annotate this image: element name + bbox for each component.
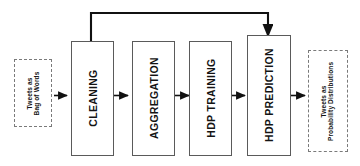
node-hdp-prediction[interactable]: HDP PREDICTION [247, 35, 291, 156]
node-input-label: Tweets as Bag of Words [26, 71, 41, 115]
node-cleaning[interactable]: CLEANING [71, 41, 114, 156]
node-cleaning-label-text: CLEANING [86, 70, 98, 127]
node-hdp-training-label: HDP TRAINING [204, 59, 216, 138]
node-output-label-line1: Tweets as [321, 85, 328, 117]
node-hdp-prediction-label: HDP PREDICTION [263, 49, 275, 143]
node-input-label-line1: Tweets as [26, 77, 33, 109]
node-input[interactable]: Tweets as Bag of Words [14, 59, 52, 127]
node-output-label: Tweets as Probability Distributions [321, 61, 336, 140]
node-output-label-line2: Probability Distributions [328, 61, 335, 140]
edge-feedback-cleaning-to-hdp-prediction [91, 13, 268, 41]
node-hdp-prediction-label-text: HDP PREDICTION [263, 49, 275, 143]
connectors-layer [0, 0, 360, 166]
node-output[interactable]: Tweets as Probability Distributions [308, 50, 348, 152]
node-aggregation-label-text: AGGREGATION [147, 58, 159, 140]
node-aggregation[interactable]: AGGREGATION [132, 41, 175, 156]
node-input-label-line2: Bag of Words [33, 71, 40, 115]
flowchart-canvas: Tweets as Bag of Words CLEANING AGGREGAT… [0, 0, 360, 166]
node-cleaning-label: CLEANING [86, 70, 98, 127]
node-aggregation-label: AGGREGATION [147, 58, 159, 140]
node-hdp-training[interactable]: HDP TRAINING [189, 41, 232, 156]
node-hdp-training-label-text: HDP TRAINING [204, 59, 216, 138]
